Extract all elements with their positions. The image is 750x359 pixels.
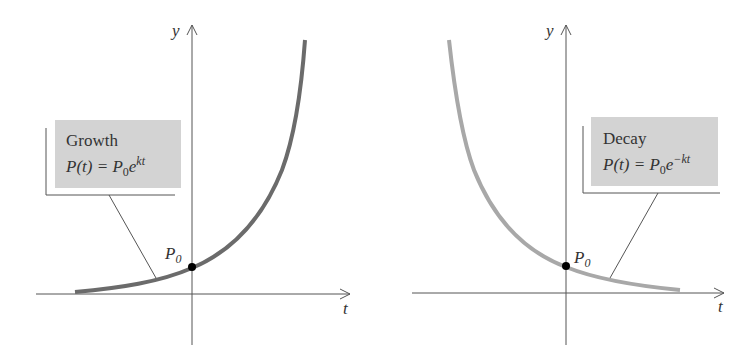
decay-graph xyxy=(412,25,724,345)
x-axis-label: t xyxy=(343,299,349,318)
decay-title: Decay xyxy=(603,129,647,148)
p0-point xyxy=(188,263,196,271)
growth-formula: P(t) = P0ekt xyxy=(65,154,146,179)
callout-leader xyxy=(109,195,156,278)
y-axis-label: y xyxy=(170,21,180,40)
p0-label: P0 xyxy=(573,248,590,270)
callout-leader xyxy=(610,193,658,278)
decay-label-box xyxy=(591,117,718,186)
x-axis-label: t xyxy=(718,297,724,316)
p0-point xyxy=(562,262,570,270)
y-axis-label: y xyxy=(544,21,554,40)
p0-label: P0 xyxy=(164,244,181,266)
growth-graph xyxy=(36,25,350,345)
growth-title: Growth xyxy=(66,131,118,150)
